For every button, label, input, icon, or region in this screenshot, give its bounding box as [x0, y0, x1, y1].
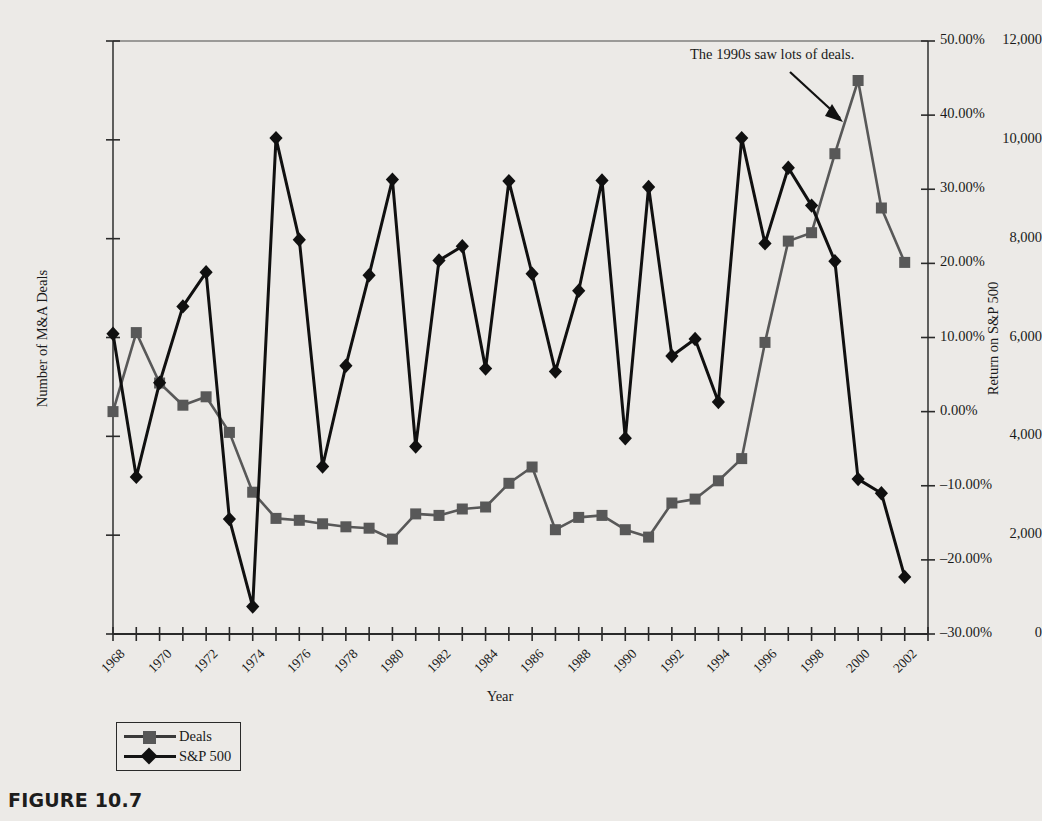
diamond-marker-icon [619, 431, 632, 445]
square-marker-icon [410, 508, 421, 519]
square-marker-icon [434, 510, 445, 521]
legend-label-deals: Deals [179, 728, 212, 745]
square-marker-icon [899, 257, 910, 268]
chart-plot-area: Number of M&A Deals Return on S&P 500 Ye… [0, 0, 1042, 700]
diamond-marker-icon [316, 459, 329, 473]
diamond-marker-icon [642, 180, 655, 194]
square-marker-icon [340, 521, 351, 532]
diamond-marker-icon [363, 268, 376, 282]
diamond-marker-icon [549, 364, 562, 378]
square-marker-icon [760, 337, 771, 348]
diamond-marker-icon [712, 395, 725, 409]
diamond-marker-icon [293, 233, 306, 247]
series-deals [108, 75, 911, 545]
legend-item-deals[interactable]: Deals [122, 726, 231, 746]
diamond-marker-icon [106, 327, 119, 341]
square-marker-icon [736, 453, 747, 464]
square-marker-icon [527, 462, 538, 473]
square-marker-icon [317, 518, 328, 529]
x-axis-title: Year [0, 688, 1000, 705]
series-line [113, 81, 905, 540]
diamond-marker-icon [246, 599, 259, 613]
diamond-marker-icon [735, 131, 748, 145]
chart-annotation-label: The 1990s saw lots of deals. [690, 46, 854, 63]
diamond-marker-icon [130, 470, 143, 484]
square-marker-icon [201, 391, 212, 402]
square-marker-icon [480, 502, 491, 513]
square-marker-icon [666, 498, 677, 509]
square-marker-icon [143, 731, 156, 744]
diamond-marker-icon [526, 267, 539, 281]
diamond-marker-icon [898, 570, 911, 584]
series-line [113, 138, 905, 606]
square-marker-icon [713, 475, 724, 486]
square-marker-icon [457, 504, 468, 515]
square-marker-icon [783, 236, 794, 247]
diamond-marker-icon [479, 361, 492, 375]
square-marker-icon [853, 75, 864, 86]
right-axis-tick-label: 50.00% [940, 31, 985, 48]
right-axis-tick-label: 0.00% [940, 402, 977, 419]
right-axis-tick-label: 30.00% [940, 179, 985, 196]
legend-label-sp500: S&P 500 [179, 748, 231, 765]
square-marker-icon [503, 478, 514, 489]
square-marker-icon [573, 512, 584, 523]
diamond-marker-icon [339, 359, 352, 373]
square-marker-icon [177, 400, 188, 411]
square-marker-icon [876, 203, 887, 214]
left-axis-tick-label: 2,000 [945, 525, 1042, 542]
diamond-marker-icon [269, 131, 282, 145]
chart-legend: Deals S&P 500 [116, 722, 241, 771]
right-axis-tick-label: –30.00% [940, 624, 992, 641]
right-axis-tick-label: –10.00% [940, 476, 992, 493]
square-marker-icon [387, 534, 398, 545]
diamond-marker-icon [828, 254, 841, 268]
left-axis-tick-label: 4,000 [945, 426, 1042, 443]
left-axis-tick-label: 8,000 [945, 229, 1042, 246]
right-axis-tick-label: 40.00% [940, 105, 985, 122]
diamond-marker-icon [456, 239, 469, 253]
annotation-arrow-icon [790, 72, 843, 122]
square-marker-icon [364, 523, 375, 534]
diamond-marker-icon [223, 512, 236, 526]
diamond-marker-icon [409, 439, 422, 453]
diamond-marker-icon [386, 172, 399, 186]
left-axis-tick-label: 10,000 [945, 130, 1042, 147]
legend-swatch-deals [122, 727, 178, 745]
diamond-marker-icon [852, 472, 865, 486]
right-axis-tick-label: 20.00% [940, 253, 985, 270]
diamond-marker-icon [502, 174, 515, 188]
right-axis-tick-label: –20.00% [940, 550, 992, 567]
square-marker-icon [690, 494, 701, 505]
square-marker-icon [271, 513, 282, 524]
square-marker-icon [224, 427, 235, 438]
legend-item-sp500[interactable]: S&P 500 [122, 746, 231, 766]
square-marker-icon [550, 524, 561, 535]
square-marker-icon [806, 227, 817, 238]
diamond-marker-icon [572, 284, 585, 298]
square-marker-icon [108, 406, 119, 417]
figure-container: Number of M&A Deals Return on S&P 500 Ye… [0, 0, 1042, 821]
diamond-marker-icon [875, 486, 888, 500]
legend-swatch-sp500 [122, 747, 178, 765]
chart-svg [0, 0, 1042, 700]
left-axis-title: Number of M&A Deals [34, 259, 51, 419]
right-axis-tick-label: 10.00% [940, 328, 985, 345]
diamond-marker-icon [595, 173, 608, 187]
diamond-marker-icon [432, 253, 445, 267]
diamond-marker-icon [141, 748, 158, 765]
square-marker-icon [294, 515, 305, 526]
square-marker-icon [620, 524, 631, 535]
figure-caption: FIGURE 10.7 [8, 789, 142, 811]
square-marker-icon [597, 510, 608, 521]
square-marker-icon [247, 487, 258, 498]
square-marker-icon [131, 327, 142, 338]
series-s-p-500 [106, 131, 911, 614]
diamond-marker-icon [758, 236, 771, 250]
square-marker-icon [643, 532, 654, 543]
square-marker-icon [829, 148, 840, 159]
